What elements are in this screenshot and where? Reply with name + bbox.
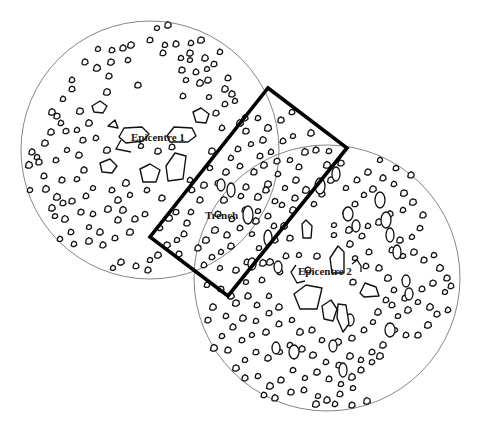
pebble bbox=[127, 229, 134, 235]
pebble-oval bbox=[352, 220, 360, 232]
large-stone bbox=[140, 164, 160, 182]
pebble bbox=[375, 308, 382, 315]
pebble bbox=[201, 262, 207, 268]
pebble-oval bbox=[405, 288, 413, 300]
pebble bbox=[303, 186, 310, 193]
pebble-oval bbox=[217, 179, 225, 191]
pebble bbox=[338, 381, 343, 386]
pebble-oval bbox=[381, 212, 391, 228]
pebble bbox=[248, 142, 253, 147]
pebble bbox=[232, 98, 237, 103]
pebble bbox=[223, 169, 230, 175]
pebble bbox=[86, 225, 91, 230]
pebble bbox=[127, 192, 132, 197]
pebble bbox=[354, 177, 360, 183]
pebble bbox=[257, 153, 263, 159]
pebble bbox=[395, 314, 400, 319]
seismic-trench-diagram: Epicentre 1 Epicentre 2 Trench bbox=[0, 0, 478, 427]
pebble bbox=[173, 41, 179, 47]
pebble bbox=[397, 237, 404, 243]
pebble bbox=[112, 235, 118, 241]
pebble bbox=[282, 185, 287, 190]
pebble bbox=[293, 177, 300, 183]
pebble bbox=[261, 162, 268, 169]
pebble bbox=[59, 177, 65, 183]
pebble bbox=[288, 389, 294, 395]
pebble bbox=[203, 237, 210, 243]
pebble bbox=[69, 198, 75, 204]
pebble bbox=[365, 223, 370, 228]
pebble bbox=[243, 128, 249, 134]
pebble bbox=[299, 346, 305, 352]
pebble bbox=[313, 401, 320, 407]
pebble bbox=[319, 338, 325, 343]
pebble bbox=[361, 327, 367, 333]
pebble bbox=[337, 391, 343, 397]
pebble bbox=[205, 77, 212, 83]
stones-layer bbox=[26, 22, 454, 408]
pebble bbox=[104, 89, 111, 96]
pebble bbox=[179, 67, 185, 73]
pebble bbox=[118, 259, 125, 265]
pebble bbox=[230, 324, 236, 330]
pebble bbox=[132, 216, 138, 222]
pebble bbox=[27, 187, 32, 192]
pebble bbox=[385, 275, 392, 281]
pebble bbox=[81, 167, 87, 173]
pebble bbox=[363, 263, 369, 269]
pebble bbox=[155, 148, 162, 154]
pebble bbox=[184, 220, 190, 226]
pebble bbox=[217, 49, 222, 54]
pebble bbox=[142, 211, 148, 216]
pebble bbox=[326, 376, 332, 382]
pebble bbox=[249, 332, 254, 337]
pebble bbox=[133, 263, 139, 269]
pebble bbox=[228, 155, 233, 160]
pebble bbox=[188, 209, 194, 214]
pebble bbox=[249, 232, 254, 237]
pebble bbox=[417, 225, 423, 230]
pebble bbox=[94, 64, 101, 71]
pebble bbox=[36, 159, 42, 165]
pebble bbox=[71, 241, 77, 246]
pebble bbox=[272, 395, 278, 401]
stone-fragment bbox=[352, 260, 361, 272]
pebble bbox=[218, 249, 223, 254]
pebble bbox=[265, 124, 272, 131]
pebble bbox=[260, 259, 267, 266]
pebble bbox=[255, 209, 260, 214]
pebble bbox=[431, 252, 437, 257]
pebble-oval bbox=[274, 261, 282, 273]
pebble bbox=[43, 185, 50, 192]
pebble bbox=[213, 110, 219, 116]
pebble-oval bbox=[375, 192, 385, 208]
pebble bbox=[411, 249, 418, 255]
pebble bbox=[222, 101, 228, 106]
pebble bbox=[243, 184, 249, 190]
pebble bbox=[90, 186, 95, 191]
pebble bbox=[313, 147, 319, 153]
pebble bbox=[393, 165, 399, 170]
pebble bbox=[301, 387, 307, 393]
pebble bbox=[106, 73, 112, 79]
pebble bbox=[155, 252, 162, 258]
pebble bbox=[308, 129, 315, 136]
pebble bbox=[108, 59, 115, 65]
pebble bbox=[255, 115, 261, 120]
pebble bbox=[278, 117, 284, 123]
pebble bbox=[350, 386, 355, 391]
pebble bbox=[309, 327, 315, 333]
pebble bbox=[253, 218, 260, 224]
large-stone bbox=[322, 300, 337, 321]
large-stone bbox=[100, 159, 117, 173]
pebble bbox=[256, 246, 261, 251]
pebble bbox=[197, 197, 203, 203]
pebble bbox=[210, 304, 217, 311]
pebble bbox=[120, 45, 126, 51]
pebble bbox=[420, 212, 426, 218]
zones-layer bbox=[21, 21, 460, 411]
large-stone bbox=[193, 108, 209, 123]
pebble bbox=[64, 147, 69, 152]
pebble bbox=[74, 177, 80, 182]
pebble bbox=[253, 318, 258, 323]
